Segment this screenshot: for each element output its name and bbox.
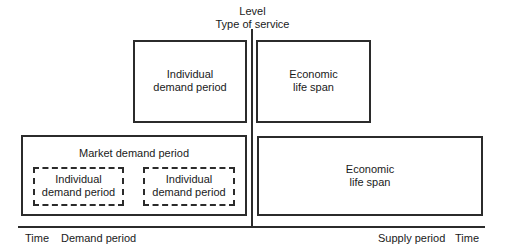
box-economic-life-span-bottom: Economic life span (257, 136, 483, 216)
axis-label-time-left: Time (25, 232, 49, 245)
box-economic-life-span-top: Economic life span (256, 40, 371, 123)
label-line-2: demand period (145, 186, 233, 199)
axis-label-time-right: Time (455, 232, 479, 245)
horizontal-axis-line (18, 226, 485, 228)
label-line-2: life span (258, 81, 369, 94)
label-line-2: life span (259, 176, 481, 189)
axis-title-level: Level (200, 5, 305, 18)
box-label: Individual demand period (35, 173, 122, 199)
box-label: Individual demand period (135, 68, 245, 94)
label-line-1: Individual (35, 173, 122, 186)
label-line-1: Economic (258, 68, 369, 81)
label-line-2: demand period (35, 186, 122, 199)
label-line-2: demand period (135, 81, 245, 94)
label-line-1: Individual (145, 173, 233, 186)
box-label: Economic life span (259, 163, 481, 189)
axis-label-demand-period: Demand period (61, 232, 136, 245)
box-individual-demand-period-dashed-2: Individual demand period (143, 167, 235, 206)
label-line-1: Economic (259, 163, 481, 176)
vertical-axis-title: Level Type of service (200, 5, 305, 31)
box-label: Economic life span (258, 68, 369, 94)
box-individual-demand-period-top: Individual demand period (133, 40, 247, 123)
box-individual-demand-period-dashed-1: Individual demand period (33, 167, 124, 206)
vertical-axis-line (251, 29, 253, 227)
label-line-1: Individual (135, 68, 245, 81)
box-label: Individual demand period (145, 173, 233, 199)
market-demand-period-title: Market demand period (23, 147, 245, 160)
axis-label-supply-period: Supply period (378, 232, 445, 245)
